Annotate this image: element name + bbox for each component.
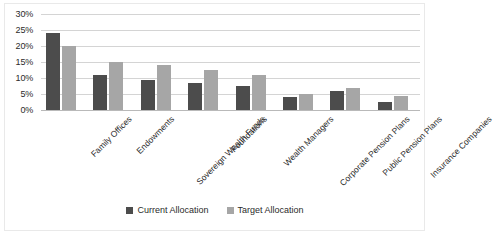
legend-item[interactable]: Target Allocation	[227, 205, 304, 215]
bar-group	[183, 14, 230, 110]
bar-group	[88, 14, 135, 110]
bar-current-allocation	[46, 33, 60, 110]
bar-target-allocation	[252, 75, 266, 110]
y-axis-tick-label: 20%	[16, 42, 33, 51]
plot-area	[41, 14, 420, 110]
bar-current-allocation	[188, 83, 202, 110]
x-axis-tick-label: Endowments	[134, 114, 176, 156]
y-axis-tick-label: 15%	[16, 58, 33, 67]
bar-current-allocation	[236, 86, 250, 110]
x-axis: Family OfficesEndowmentsSovereign Wealth…	[41, 112, 420, 194]
legend-swatch-icon	[227, 207, 234, 214]
bar-current-allocation	[330, 91, 344, 110]
bar-group	[231, 14, 278, 110]
bar-groups	[41, 14, 420, 110]
y-axis-tick-label: 5%	[20, 90, 33, 99]
chart-legend: Current AllocationTarget Allocation	[0, 205, 430, 215]
bar-target-allocation	[299, 94, 313, 110]
bar-target-allocation	[346, 88, 360, 110]
x-axis-tick-label: Wealth Managers	[282, 114, 336, 168]
bar-current-allocation	[141, 80, 155, 110]
y-axis-tick-label: 0%	[20, 106, 33, 115]
bar-target-allocation	[394, 96, 408, 110]
bar-group	[278, 14, 325, 110]
bar-target-allocation	[109, 62, 123, 110]
legend-item[interactable]: Current Allocation	[126, 205, 208, 215]
bar-group	[41, 14, 88, 110]
legend-item-label: Current Allocation	[137, 205, 208, 215]
bar-target-allocation	[204, 70, 218, 110]
bar-current-allocation	[283, 97, 297, 110]
y-axis-tick-label: 10%	[16, 74, 33, 83]
x-axis-tick-label: Family Offices	[88, 114, 133, 159]
legend-item-label: Target Allocation	[238, 205, 304, 215]
y-axis: 30%25%20%15%10%5%0%	[0, 0, 38, 124]
bar-current-allocation	[93, 75, 107, 110]
bar-group	[325, 14, 372, 110]
bar-target-allocation	[157, 65, 171, 110]
gridline	[41, 110, 420, 111]
bar-group	[373, 14, 420, 110]
x-axis-tick-label: Foundations	[229, 114, 269, 154]
bar-current-allocation	[378, 102, 392, 110]
y-axis-tick-label: 25%	[16, 26, 33, 35]
bar-target-allocation	[62, 46, 76, 110]
legend-swatch-icon	[126, 207, 133, 214]
bar-group	[136, 14, 183, 110]
y-axis-tick-label: 30%	[16, 10, 33, 19]
